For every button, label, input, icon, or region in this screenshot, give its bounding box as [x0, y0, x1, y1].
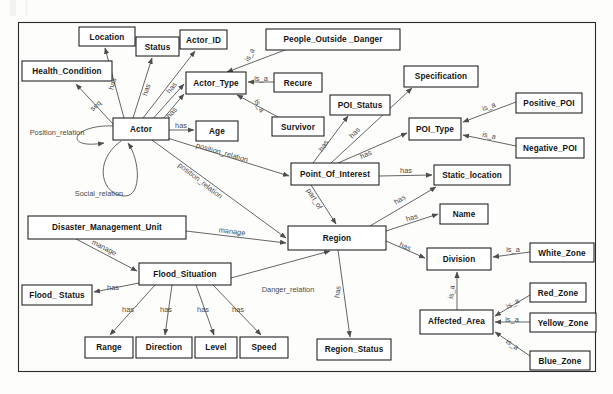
edge-label-has-age: has [175, 121, 187, 130]
edge-label-position-self: Position_relation [30, 128, 85, 137]
edge-label-has-regionstatus: has [332, 285, 342, 298]
edge-poi-poitype [338, 133, 407, 163]
edge-label-partof: part_of [305, 187, 325, 212]
node-label-division: Division [443, 255, 476, 264]
node-flood-situation[interactable]: Flood_Situation [139, 263, 231, 285]
node-label-region: Region [323, 234, 351, 243]
edge-label-has-status: has [140, 82, 152, 96]
node-location[interactable]: Location [79, 27, 135, 46]
node-recure[interactable]: Recure [274, 73, 322, 92]
edge-actor-social-self [103, 141, 137, 196]
ontology-diagram-canvas: has has has has seq has Position_relatio… [0, 0, 613, 394]
node-poi-type[interactable]: POI_Type [409, 118, 461, 140]
node-label-negative-poi: Negative_POI [523, 144, 577, 153]
node-label-actor-id: Actor_ID [186, 36, 221, 45]
node-label-actor: Actor [130, 125, 153, 134]
node-label-people-outside-danger: People_Outside _Danger [283, 35, 383, 44]
edge-label-position-region: position_relation [176, 160, 224, 200]
node-age[interactable]: Age [196, 121, 238, 141]
edge-label-has-level: has [197, 305, 209, 314]
node-label-red-zone: Red_Zone [538, 289, 579, 298]
node-label-flood-status: Flood_ Status [29, 291, 85, 300]
node-positive-poi[interactable]: Positive_POI [516, 93, 582, 113]
node-direction[interactable]: Direction [136, 337, 192, 358]
node-region-status[interactable]: Region_Status [317, 339, 391, 360]
node-label-direction: Direction [146, 343, 182, 352]
edge-label-danger-relation: Danger_relation [262, 285, 315, 294]
node-label-age: Age [209, 127, 225, 136]
node-label-poi-type: POI_Type [416, 125, 454, 134]
edge-label-has-speed: has [232, 305, 244, 314]
node-label-specification: Specification [415, 72, 467, 81]
node-label-level: Level [205, 343, 226, 352]
node-label-recure: Recure [284, 79, 313, 88]
node-white-zone[interactable]: White_Zone [530, 243, 594, 262]
edge-label-has-direction: has [160, 305, 172, 314]
node-speed[interactable]: Speed [240, 337, 288, 358]
node-label-speed: Speed [251, 343, 276, 352]
node-label-disaster-management-unit: Disaster_Management_Unit [52, 223, 162, 232]
edge-label-has-poistatus: has [317, 138, 331, 153]
edge-people-actortype [227, 50, 285, 72]
edge-region-staticlocation [370, 187, 436, 226]
edge-label-isa-bluezone: is_a [504, 337, 521, 353]
edge-label-has-specification: has [347, 125, 362, 140]
edge-label-has-region-staticloc: has [392, 192, 407, 206]
node-actor-id[interactable]: Actor_ID [180, 30, 227, 49]
node-label-range: Range [96, 343, 122, 352]
edge-label-has-floodstatus: has [107, 283, 119, 292]
node-region[interactable]: Region [288, 226, 386, 250]
node-flood-status[interactable]: Flood_ Status [22, 285, 92, 305]
node-negative-poi[interactable]: Negative_POI [516, 138, 584, 158]
node-poi-status[interactable]: POI_Status [330, 95, 390, 115]
node-people-outside-danger[interactable]: People_Outside _Danger [266, 29, 400, 50]
edge-label-isa-recure: is_a [254, 74, 268, 83]
edge-label-social-self: Social_relation [75, 189, 123, 198]
node-disaster-management-unit[interactable]: Disaster_Management_Unit [28, 216, 186, 239]
node-label-poi-status: POI_Status [338, 101, 383, 110]
node-static-location[interactable]: Static_location [434, 165, 510, 185]
node-label-yellow-zone: Yellow_Zone [538, 319, 589, 328]
node-status[interactable]: Status [136, 37, 179, 56]
node-level[interactable]: Level [195, 337, 237, 358]
node-label-survivor: Survivor [281, 123, 316, 132]
edge-label-has-name: has [405, 211, 419, 223]
edge-label-isa-positivepoi: is_a [481, 100, 498, 113]
node-label-positive-poi: Positive_POI [523, 99, 574, 108]
edge-label-position-poi: position_relation [195, 141, 249, 164]
node-label-location: Location [90, 33, 125, 42]
edge-label-isa-survivor: is_a [252, 98, 267, 115]
node-actor-type[interactable]: Actor_Type [186, 72, 246, 94]
node-blue-zone[interactable]: Blue_Zone [530, 351, 590, 370]
edge-label-isa-whitezone: is_a [506, 245, 520, 254]
node-label-blue-zone: Blue_Zone [539, 357, 582, 366]
edge-poi-staticlocation [379, 175, 432, 176]
edge-label-manage-flood: manage [90, 237, 118, 257]
node-health-condition[interactable]: Health_Condition [22, 61, 112, 81]
edge-label-has-staticloc: has [400, 166, 412, 175]
edge-label-isa-affectedarea: is_a [446, 284, 457, 300]
node-label-region-status: Region_Status [325, 345, 384, 354]
node-name[interactable]: Name [440, 204, 488, 224]
node-label-status: Status [145, 43, 171, 52]
node-point-of-interest[interactable]: Point_Of_Interest [291, 163, 379, 185]
node-specification[interactable]: Specification [404, 66, 478, 87]
edge-label-isa-redzone: is_a [505, 296, 522, 311]
node-survivor[interactable]: Survivor [272, 117, 324, 136]
node-label-health-condition: Health_Condition [32, 67, 101, 76]
node-label-actor-type: Actor_Type [193, 79, 239, 88]
edge-label-has-actorid: has [164, 80, 179, 95]
node-label-point-of-interest: Point_Of_Interest [300, 170, 370, 179]
edge-floodsituation-region [231, 251, 330, 278]
node-red-zone[interactable]: Red_Zone [530, 283, 586, 302]
node-label-name: Name [453, 210, 476, 219]
edge-label-has-range: has [122, 305, 134, 314]
node-actor[interactable]: Actor [113, 118, 169, 140]
node-range[interactable]: Range [85, 337, 133, 358]
node-label-white-zone: White_Zone [538, 249, 586, 258]
edge-label-isa-yellowzone: is_a [505, 315, 519, 324]
node-label-flood-situation: Flood_Situation [153, 270, 216, 279]
node-yellow-zone[interactable]: Yellow_Zone [530, 313, 596, 332]
node-affected-area[interactable]: Affected_Area [420, 310, 493, 334]
node-division[interactable]: Division [427, 248, 491, 270]
